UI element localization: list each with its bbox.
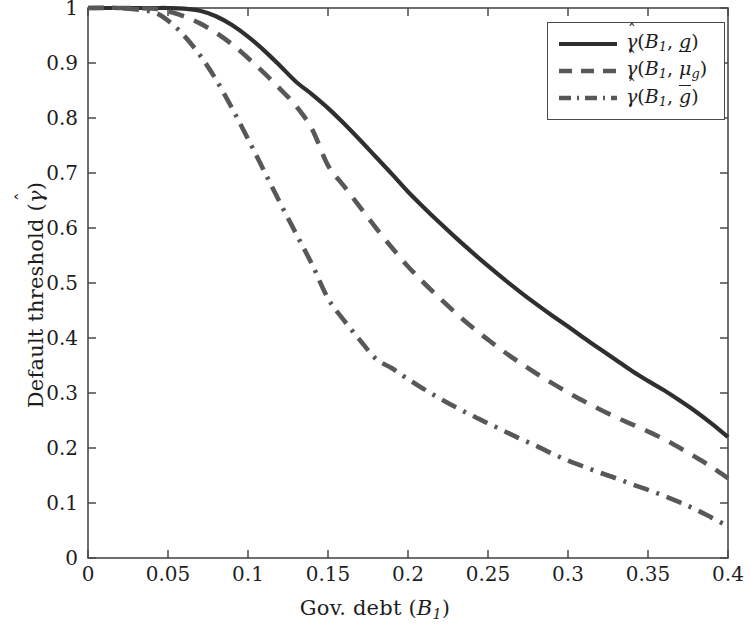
y-axis-title-paren-open: (	[24, 203, 48, 211]
chart-figure: 00.050.10.150.20.250.30.350.4 00.10.20.3…	[0, 0, 750, 633]
x-axis-title: Gov. debt (B1)	[0, 596, 750, 622]
x-tick-label: 0.2	[392, 562, 424, 586]
legend-label: ˆγ(B1, μg)	[626, 59, 707, 81]
legend-comma: ,	[667, 85, 679, 107]
x-axis-title-variable: B	[417, 596, 433, 620]
y-axis-title-hat: ˆ	[13, 192, 34, 201]
y-tick-label: 0.7	[46, 161, 78, 185]
legend-base-variable: B	[645, 85, 659, 107]
legend-gamma: ˆγ	[626, 87, 637, 106]
legend-line-sample-dashdot	[557, 88, 619, 108]
y-tick-label: 0.1	[46, 491, 78, 515]
legend-label: ˆγ(B1, g)	[626, 85, 699, 109]
legend-argument: g	[679, 85, 691, 107]
x-axis-title-text: Gov. debt	[300, 596, 402, 620]
y-tick-label: 0.6	[46, 216, 78, 240]
x-tick-label: 0.05	[146, 562, 191, 586]
legend-paren-open: (	[637, 57, 644, 79]
legend-hat-accent: ˆ	[628, 78, 636, 94]
legend-hat-accent: ˆ	[628, 50, 636, 66]
legend-argument-glyph: g	[679, 85, 691, 107]
legend-paren-close: )	[691, 85, 698, 107]
y-axis-title: Default threshold (ˆγ)	[24, 115, 48, 475]
y-tick-label: 0.4	[46, 326, 78, 350]
x-axis-title-paren-open: (	[408, 596, 416, 620]
x-tick-label: 0.25	[466, 562, 511, 586]
legend-comma: ,	[667, 57, 679, 79]
y-axis-title-gamma: ˆγ	[24, 190, 48, 203]
legend-base-variable: B	[645, 57, 659, 79]
legend-paren-open: (	[637, 85, 644, 107]
y-tick-label: 0.2	[46, 436, 78, 460]
x-tick-label: 0.1	[232, 562, 264, 586]
legend-item: ˆγ(B1, g)	[557, 30, 715, 57]
legend-item: ˆγ(B1, μg)	[557, 57, 715, 84]
legend-argument-glyph: g	[679, 30, 691, 52]
legend-base-subscript: 1	[659, 95, 667, 110]
x-tick-label: 0.3	[552, 562, 584, 586]
legend-paren-open: (	[637, 30, 644, 52]
y-tick-label: 1	[65, 0, 78, 20]
x-axis-title-paren-close: )	[442, 596, 450, 620]
legend-paren-close: )	[700, 57, 707, 79]
legend-argument-glyph: μ	[679, 57, 691, 79]
legend-item: ˆγ(B1, g)	[557, 84, 715, 111]
legend-paren-close: )	[691, 30, 698, 52]
x-tick-label: 0	[82, 562, 95, 586]
legend-line-sample-dashed	[557, 61, 619, 81]
legend: ˆγ(B1, g)ˆγ(B1, μg)ˆγ(B1, g)	[547, 22, 725, 120]
y-tick-label: 0	[65, 546, 78, 570]
x-tick-label: 0.35	[626, 562, 671, 586]
legend-hat-accent: ˆ	[628, 23, 636, 39]
legend-label: ˆγ(B1, g)	[626, 32, 699, 54]
legend-base-variable: B	[645, 30, 659, 52]
legend-comma: ,	[667, 30, 679, 52]
x-axis-title-subscript: 1	[432, 606, 441, 622]
legend-base-subscript: 1	[659, 40, 667, 55]
y-axis-title-text: Default threshold	[24, 218, 48, 408]
y-tick-label: 0.9	[46, 51, 78, 75]
legend-base-subscript: 1	[659, 67, 667, 82]
y-axis-title-paren-close: )	[24, 182, 48, 190]
legend-argument-subscript: g	[691, 67, 699, 82]
y-tick-label: 0.5	[46, 271, 78, 295]
legend-argument: g	[679, 32, 691, 52]
legend-argument: μ	[679, 57, 691, 79]
x-tick-label: 0.15	[306, 562, 351, 586]
legend-line-sample-solid	[557, 34, 619, 54]
y-tick-label: 0.8	[46, 106, 78, 130]
x-tick-label: 0.4	[712, 562, 744, 586]
y-tick-label: 0.3	[46, 381, 78, 405]
